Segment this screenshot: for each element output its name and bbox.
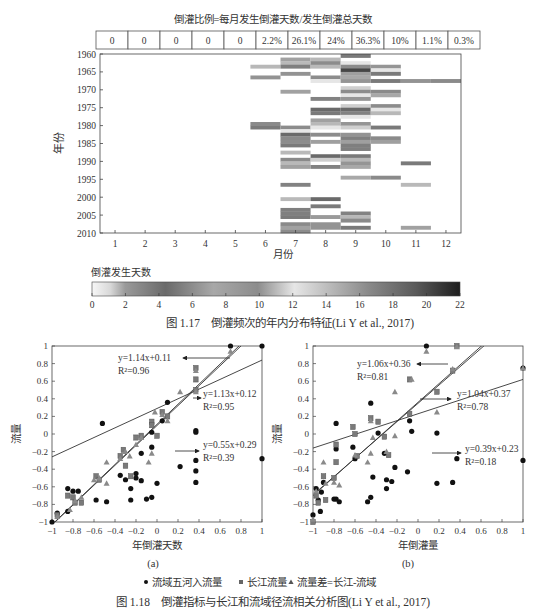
heatmap-cell bbox=[281, 197, 311, 201]
heatmap-cell bbox=[341, 140, 371, 144]
circle-marker bbox=[334, 421, 339, 426]
heatmap-cell bbox=[371, 65, 401, 69]
heatmap-cell bbox=[281, 226, 311, 230]
heatmap-cell bbox=[281, 136, 311, 140]
heatmap-cell bbox=[311, 158, 341, 162]
heatmap-cell bbox=[281, 65, 311, 69]
heatmap-cell bbox=[341, 144, 371, 148]
x-tick-label: 6 bbox=[263, 239, 268, 249]
square-marker bbox=[314, 493, 319, 498]
x-tick-label: 3 bbox=[173, 239, 178, 249]
y-tick-label: −1 bbox=[38, 517, 48, 527]
heatmap-cell bbox=[281, 129, 311, 133]
svg-text:10%: 10% bbox=[391, 36, 409, 46]
heatmap-cell bbox=[371, 79, 401, 83]
heatmap-cell bbox=[341, 86, 371, 90]
y-tick-label: 0 bbox=[44, 429, 49, 439]
svg-text:y=0.55x+0.29: y=0.55x+0.29 bbox=[203, 440, 257, 450]
circle-marker bbox=[139, 478, 144, 483]
x-tick-label: 1 bbox=[260, 526, 265, 536]
heatmap-cell bbox=[341, 54, 371, 58]
heatmap-cell bbox=[401, 79, 431, 83]
heatmap-cell bbox=[281, 90, 311, 94]
circle-marker bbox=[128, 486, 133, 491]
ratio-cell: 0 bbox=[160, 31, 192, 49]
heatmap-cell bbox=[250, 75, 280, 79]
heatmap-cell bbox=[250, 65, 280, 69]
heatmap-cell bbox=[401, 161, 431, 165]
ratio-cell: 0 bbox=[224, 31, 256, 49]
heatmap-cell bbox=[281, 72, 311, 76]
circle-marker bbox=[376, 431, 381, 436]
x-tick-label: −1 bbox=[308, 526, 318, 536]
heatmap-cell bbox=[401, 183, 431, 187]
square-marker bbox=[128, 474, 133, 479]
y-tick-label: 1980 bbox=[77, 121, 96, 131]
circle-marker bbox=[368, 401, 373, 406]
colorbar-tick-label: 14 bbox=[321, 300, 331, 310]
heatmap-cell bbox=[341, 154, 371, 158]
x-axis-label: 年倒灌量 bbox=[398, 539, 439, 551]
svg-text:R²=0.81: R²=0.81 bbox=[357, 372, 388, 382]
colorbar-tick-label: 6 bbox=[190, 300, 195, 310]
ratio-cell: 0 bbox=[96, 31, 128, 49]
circle-marker bbox=[118, 473, 123, 478]
legend-item: 流域五河入流量 bbox=[144, 576, 223, 588]
x-tick-label: 0.8 bbox=[496, 526, 508, 536]
heatmap-cell bbox=[341, 212, 371, 216]
square-marker bbox=[123, 463, 128, 468]
square-marker bbox=[382, 434, 387, 439]
heatmap-cell bbox=[371, 126, 401, 130]
circle-marker bbox=[144, 497, 149, 502]
ratio-cell: 0 bbox=[192, 31, 224, 49]
y-tick-label: 0.8 bbox=[298, 359, 310, 369]
heatmap-cell bbox=[371, 68, 401, 72]
colorbar-tick-label: 4 bbox=[157, 300, 162, 310]
ratio-table: 000002.2%26.1%24%36.3%10%1.1%0.3% bbox=[96, 31, 480, 49]
heatmap-cell bbox=[371, 93, 401, 97]
colorbar-tick-label: 10 bbox=[255, 300, 265, 310]
heatmap-cell bbox=[311, 140, 341, 144]
x-tick-label: 11 bbox=[411, 239, 420, 249]
heatmap-cell bbox=[281, 165, 311, 169]
square-marker bbox=[376, 419, 381, 424]
scatter-legend: 流域五河入流量长江流量流量差=长江-流域 bbox=[144, 576, 377, 588]
x-tick-label: 5 bbox=[233, 239, 238, 249]
y-tick-label: 1 bbox=[305, 341, 310, 351]
ratio-cell: 36.3% bbox=[352, 31, 384, 49]
x-tick-label: 1 bbox=[113, 239, 118, 249]
circle-marker bbox=[70, 489, 75, 494]
x-tick-label: 7 bbox=[293, 239, 298, 249]
circle-marker bbox=[384, 486, 389, 491]
colorbar-title: 倒灌发生天数 bbox=[91, 266, 151, 278]
y-tick-label: −0.2 bbox=[32, 447, 48, 457]
y-tick-label: 1960 bbox=[77, 50, 96, 60]
square-marker bbox=[323, 497, 328, 502]
y-tick-label: 1970 bbox=[77, 85, 96, 95]
svg-text:0: 0 bbox=[238, 36, 243, 46]
heatmap-cell bbox=[250, 126, 280, 130]
svg-text:24%: 24% bbox=[327, 36, 345, 46]
y-tick-label: −0.8 bbox=[32, 499, 49, 509]
y-tick-label: 1 bbox=[44, 341, 49, 351]
y-tick-label: 1985 bbox=[77, 139, 96, 149]
heatmap-ylabel: 年份 bbox=[52, 132, 65, 154]
colorbar-tick-label: 18 bbox=[388, 300, 398, 310]
heatmap-cell bbox=[311, 197, 341, 201]
y-tick-label: 1975 bbox=[77, 103, 96, 113]
heatmap-cell bbox=[311, 126, 341, 130]
heatmap-cell bbox=[311, 79, 341, 83]
circle-marker bbox=[65, 486, 70, 491]
circle-marker bbox=[520, 458, 525, 463]
circle-marker bbox=[193, 468, 198, 473]
heatmap-cell bbox=[341, 97, 371, 101]
circle-marker bbox=[409, 429, 414, 434]
heatmap-cell bbox=[341, 115, 371, 119]
x-tick-label: −0.8 bbox=[326, 526, 343, 536]
heatmap-cell bbox=[311, 226, 341, 230]
svg-text:0.3%: 0.3% bbox=[454, 36, 474, 46]
colorbar-gradient bbox=[92, 282, 460, 296]
svg-text:y=1.14x+0.11: y=1.14x+0.11 bbox=[118, 353, 171, 363]
square-marker bbox=[149, 423, 154, 428]
circle-marker bbox=[318, 509, 323, 514]
